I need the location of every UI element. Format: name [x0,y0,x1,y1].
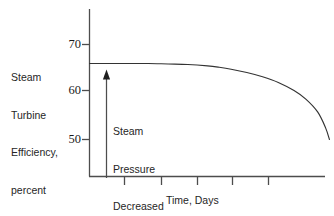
y-tick-label-60: 60 [57,83,81,98]
y-axis-title-line-1: Steam [11,71,58,84]
annotation-line-1: Steam [113,125,164,138]
y-axis-title: Steam Turbine Efficiency, percent [11,46,58,216]
annotation-line-3: Decreased [113,200,164,213]
chart-figure: 70 60 50 Steam Turbine Efficiency, perce… [0,0,334,216]
annotation-steam-pressure-decreased: Steam Pressure Decreased [113,100,164,216]
annotation-line-2: Pressure [113,163,164,176]
y-axis-title-line-3: Efficiency, [11,146,58,159]
y-tick-label-50: 50 [57,132,81,147]
y-tick-label-70: 70 [57,37,81,52]
steam-pressure-arrow [103,70,110,179]
x-axis-title: Time, Days [166,194,219,207]
y-axis-title-line-4: percent [11,184,58,197]
y-axis-title-line-2: Turbine [11,109,58,122]
